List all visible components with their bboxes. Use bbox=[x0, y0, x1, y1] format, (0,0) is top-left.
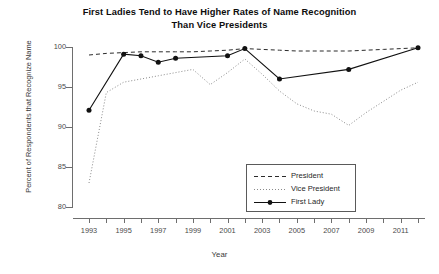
data-point bbox=[121, 52, 126, 57]
plot-area bbox=[0, 0, 439, 274]
data-point bbox=[416, 45, 421, 50]
data-point bbox=[138, 53, 143, 58]
legend-key-solid-point-icon bbox=[253, 196, 287, 209]
chart-legend: President Vice President First Lady bbox=[246, 164, 356, 212]
data-point bbox=[277, 77, 282, 82]
chart-root: First Ladies Tend to Have Higher Rates o… bbox=[0, 0, 439, 274]
legend-item-vice-president: Vice President bbox=[247, 183, 357, 196]
legend-label-president: President bbox=[291, 171, 323, 180]
data-point bbox=[156, 60, 161, 65]
data-point bbox=[346, 67, 351, 72]
data-point bbox=[225, 53, 230, 58]
series-line-first-lady bbox=[89, 48, 418, 110]
series-line-president bbox=[89, 48, 418, 55]
data-point bbox=[242, 46, 247, 51]
legend-label-first-lady: First Lady bbox=[291, 197, 324, 206]
legend-item-president: President bbox=[247, 170, 357, 183]
legend-label-vice-president: Vice President bbox=[291, 184, 340, 193]
data-point bbox=[173, 56, 178, 61]
legend-item-first-lady: First Lady bbox=[247, 196, 357, 209]
legend-key-dotted-icon bbox=[253, 183, 287, 196]
data-point bbox=[87, 108, 92, 113]
legend-key-dashed-icon bbox=[253, 170, 287, 183]
